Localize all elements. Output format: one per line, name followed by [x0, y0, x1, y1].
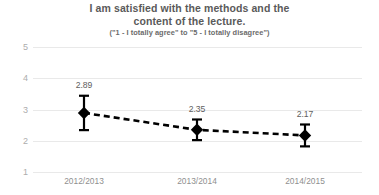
x-axis-tick-2014-2015: 2014/2015: [250, 176, 360, 187]
data-point-label-1: 2.35: [167, 104, 227, 114]
plot-area: 5 4 3 2 1 2.89 2.35 2.17 2012/2013 2013/…: [0, 0, 379, 195]
data-point-label-0: 2.89: [54, 80, 114, 90]
x-axis-tick-2012-2013: 2012/2013: [29, 176, 139, 187]
x-axis-tick-2013-2014: 2013/2014: [142, 176, 252, 187]
chart-container: I am satisfied with the methods and the …: [0, 0, 379, 195]
data-series-layer: [0, 0, 379, 195]
data-point-label-2: 2.17: [275, 109, 335, 119]
